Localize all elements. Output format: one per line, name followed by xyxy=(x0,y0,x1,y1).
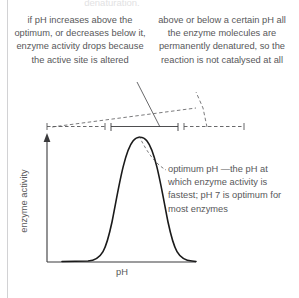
leader-dashed-right-bracket xyxy=(196,92,207,127)
diagram-page: denaturation. if pH increases above the … xyxy=(0,0,299,298)
y-axis-label: enzyme activity xyxy=(19,153,29,249)
x-axis-label: pH xyxy=(47,267,197,277)
caption-optimum-ph: optimum pH —the pH at which enzyme activ… xyxy=(168,163,286,216)
bracket-denatured-right xyxy=(184,123,244,130)
diagram-graphics xyxy=(0,0,299,298)
leader-dashed-left-bracket xyxy=(52,108,196,127)
bracket-active-range xyxy=(111,123,178,131)
leader-line-left-caption xyxy=(137,82,160,127)
y-axis xyxy=(44,133,51,262)
